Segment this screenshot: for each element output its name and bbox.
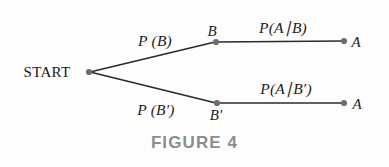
figure-caption: FIGURE 4	[0, 133, 389, 153]
edge-label-p-a-given-b: P(A∣B)	[259, 20, 307, 36]
node-dot-b	[213, 39, 219, 45]
node-dot-a-upper	[341, 38, 347, 44]
edge-label-p-a-given-b-prime: P(A∣B′)	[260, 81, 312, 97]
branch-b-to-a	[216, 41, 343, 42]
node-dot-start	[86, 69, 92, 75]
node-label-a-upper: A	[351, 35, 360, 50]
branch-start-to-b-prime	[90, 72, 216, 103]
edge-label-p-of-b: P (B)	[138, 33, 172, 49]
node-dot-a-lower	[341, 100, 347, 106]
node-label-start: START	[24, 65, 71, 80]
figure-container: START B B′ A A P (B) P (B′) P(A∣B) P(A∣B…	[0, 0, 389, 167]
edge-label-p-of-b-prime: P (B′)	[137, 102, 174, 118]
node-label-a-lower: A	[352, 97, 361, 112]
node-dot-b-prime	[214, 100, 220, 106]
node-label-b: B	[207, 24, 216, 39]
node-label-b-prime: B′	[210, 108, 222, 123]
